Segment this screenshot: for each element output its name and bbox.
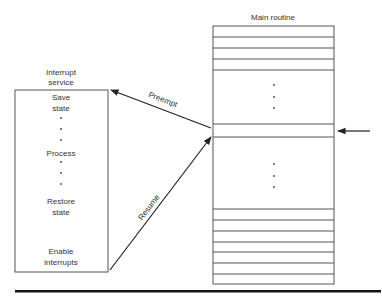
ellipsis-dot bbox=[273, 107, 275, 109]
bottom-rule bbox=[15, 290, 381, 293]
ellipsis-dot bbox=[273, 186, 275, 188]
interrupt-service-title-2: service bbox=[48, 78, 74, 87]
resume-arrow bbox=[110, 137, 211, 270]
ellipsis-dot bbox=[60, 128, 62, 130]
step-save: Save bbox=[52, 93, 71, 102]
interrupt-service-title: Interrupt bbox=[46, 68, 77, 77]
ellipsis-dot bbox=[273, 96, 275, 98]
step-restore: Restore bbox=[47, 197, 76, 206]
interrupt-diagram: Main routine Interrupt service Save stat… bbox=[0, 0, 382, 298]
ellipsis-dot bbox=[273, 163, 275, 165]
ellipsis-dot bbox=[60, 172, 62, 174]
step-enable: Enable bbox=[49, 247, 74, 256]
preempt-label: Preempt bbox=[147, 90, 179, 109]
main-routine-title: Main routine bbox=[251, 13, 296, 22]
main-routine-dots bbox=[273, 84, 275, 188]
main-routine-lines bbox=[213, 37, 334, 274]
main-routine-box bbox=[213, 26, 334, 284]
step-restore-2: state bbox=[52, 208, 70, 217]
ellipsis-dot bbox=[60, 139, 62, 141]
ellipsis-dot bbox=[60, 117, 62, 119]
step-save-2: state bbox=[52, 104, 70, 113]
ellipsis-dot bbox=[273, 175, 275, 177]
step-enable-2: interrupts bbox=[44, 258, 77, 267]
ellipsis-dot bbox=[60, 161, 62, 163]
ellipsis-dot bbox=[273, 84, 275, 86]
ellipsis-dot bbox=[60, 183, 62, 185]
step-process: Process bbox=[47, 149, 76, 158]
